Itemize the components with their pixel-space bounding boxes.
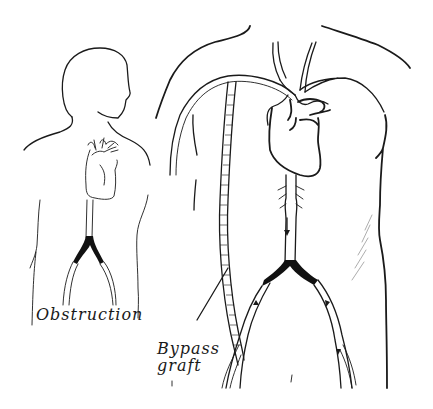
- stray-mark-2: [291, 375, 292, 382]
- aorta-flow-arrowhead: [284, 230, 290, 236]
- aorta-side-branches: [278, 186, 304, 208]
- large-left-side: [193, 115, 197, 210]
- large-right-shoulder: [322, 26, 410, 68]
- large-right-side-shading: [352, 215, 372, 280]
- large-iliac-right: [314, 280, 352, 388]
- large-obstruction-fill: [262, 260, 318, 286]
- large-left-shoulder: [156, 26, 250, 118]
- large-right-side: [376, 115, 387, 388]
- small-iliac-left: [63, 262, 78, 305]
- obstruction-label: Obstruction: [36, 305, 143, 324]
- small-right-side: [137, 195, 148, 318]
- bypass-graft-label-line2: graft: [157, 357, 220, 374]
- small-head-outline: [62, 48, 130, 118]
- large-heart: [269, 99, 330, 176]
- graft-leader-line: [197, 268, 228, 320]
- small-left-shoulder: [24, 117, 73, 150]
- graft-corrugated-left: [219, 82, 238, 365]
- small-heart-vessels: [94, 138, 118, 152]
- iliac-flow-arrowhead-3: [253, 300, 259, 305]
- small-figure: [24, 48, 150, 325]
- bypass-graft-label-line1: Bypass: [157, 340, 220, 357]
- small-iliac-right: [100, 262, 116, 305]
- small-aorta: [86, 200, 93, 238]
- graft-corrugated-right: [227, 82, 244, 360]
- large-torso: [156, 26, 410, 388]
- small-right-shoulder: [108, 122, 150, 165]
- bypass-graft-label: Bypass graft: [157, 340, 220, 374]
- small-obstruction-fill: [73, 236, 104, 264]
- carotid-left: [273, 42, 286, 80]
- small-heart: [86, 140, 118, 200]
